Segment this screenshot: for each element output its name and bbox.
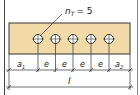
dim-length-label: l bbox=[68, 76, 71, 86]
dim-e-label-4: e bbox=[98, 60, 103, 69]
dim-e-label-1: e bbox=[44, 60, 49, 69]
dim-e-label-3: e bbox=[80, 60, 85, 69]
fastener-spacing-diagram: nT= 5 a1 e e e e a2 l bbox=[0, 0, 140, 95]
dim-e-label-2: e bbox=[62, 60, 67, 69]
dim-a1-label: a1 bbox=[17, 60, 25, 70]
dim-a2-label: a2 bbox=[115, 60, 123, 70]
hole-count-label: nT= 5 bbox=[65, 6, 93, 17]
